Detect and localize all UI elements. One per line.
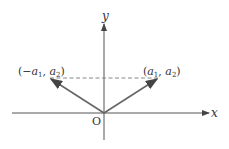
right-point-label: (a1, a2) [143,65,181,79]
left-point-label: (−a1, a2) [18,65,65,79]
right-vector [104,79,157,113]
left-vector [51,79,104,113]
x-axis-label: x [211,106,218,120]
origin-label: O [92,115,101,128]
y-axis-label: y [101,9,109,23]
vector-diagram: y x O (−a1, a2) (a1, a2) [0,0,229,149]
